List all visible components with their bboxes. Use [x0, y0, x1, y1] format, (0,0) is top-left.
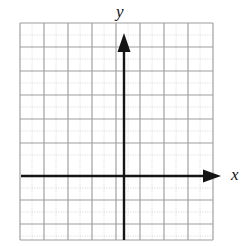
y-axis: [118, 33, 131, 240]
y-axis-label: y: [116, 3, 124, 20]
coordinate-plane-figure: y x: [0, 0, 252, 247]
y-axis-arrowhead: [118, 33, 131, 52]
x-axis-label: x: [231, 166, 239, 183]
x-axis: [21, 170, 221, 183]
major-grid-lines: [20, 23, 213, 240]
x-axis-arrowhead: [203, 170, 221, 183]
coordinate-grid-canvas: [0, 0, 252, 247]
